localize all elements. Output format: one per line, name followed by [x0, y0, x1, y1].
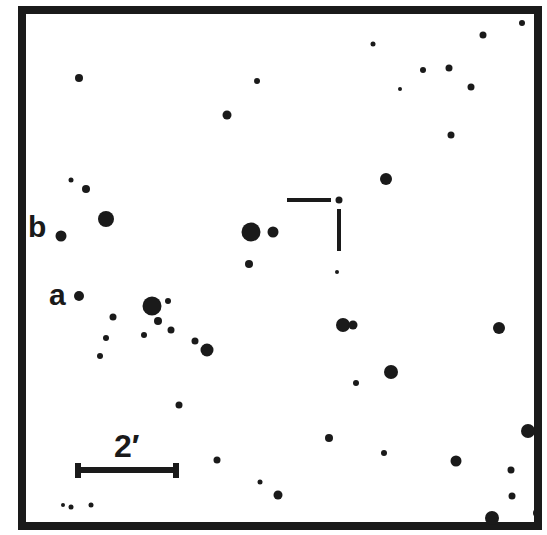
star [176, 402, 183, 409]
star [97, 353, 103, 359]
label-b: b [28, 212, 46, 242]
star [468, 84, 475, 91]
star [168, 327, 175, 334]
star [381, 450, 387, 456]
finder-chart: b a 2′ [0, 0, 547, 535]
star [446, 65, 453, 72]
star [82, 185, 90, 193]
star [98, 211, 114, 227]
star [75, 74, 83, 82]
star [254, 78, 260, 84]
scale-label: 2′ [114, 430, 139, 462]
star-b [56, 231, 67, 242]
star [508, 467, 515, 474]
star [533, 509, 541, 517]
star [480, 32, 487, 39]
star [349, 321, 358, 330]
star-a [74, 291, 84, 301]
star [258, 480, 263, 485]
star [141, 332, 147, 338]
star [420, 67, 426, 73]
star [214, 457, 221, 464]
star [242, 223, 261, 242]
scale-bar-cap-right [173, 463, 179, 478]
target-marker-horizontal [287, 198, 331, 202]
star [201, 344, 214, 357]
star [448, 132, 455, 139]
star [103, 335, 109, 341]
star [335, 270, 339, 274]
star [69, 505, 74, 510]
star [509, 493, 516, 500]
target-star [336, 197, 343, 204]
star [61, 503, 65, 507]
star [192, 338, 199, 345]
star [521, 424, 535, 438]
star [69, 178, 74, 183]
star [325, 434, 333, 442]
star [493, 322, 505, 334]
star [268, 227, 279, 238]
star [485, 511, 499, 525]
star [89, 503, 94, 508]
star [519, 20, 525, 26]
star [274, 491, 283, 500]
star [110, 314, 117, 321]
label-a: a [49, 280, 66, 310]
star [223, 111, 232, 120]
star [165, 298, 171, 304]
star [143, 297, 162, 316]
star [398, 87, 402, 91]
star [451, 456, 462, 467]
star [154, 317, 162, 325]
star [384, 365, 398, 379]
scale-bar [77, 467, 177, 473]
star [245, 260, 253, 268]
target-marker-vertical [337, 209, 341, 251]
star [371, 42, 376, 47]
scale-bar-cap-left [75, 463, 81, 478]
star [353, 380, 359, 386]
star [380, 173, 392, 185]
chart-frame [18, 6, 542, 530]
